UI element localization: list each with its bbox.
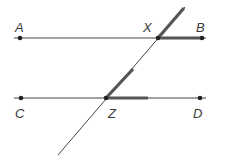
angle-x-ray-up (158, 8, 184, 38)
label-a: A (14, 20, 24, 35)
point-d (198, 96, 203, 101)
label-z: Z (107, 106, 117, 121)
label-c: C (15, 106, 25, 121)
label-d: D (193, 106, 202, 121)
point-a (18, 36, 23, 41)
point-c (19, 96, 24, 101)
geometry-diagram: A X B C Z D (0, 0, 228, 165)
point-x (156, 36, 161, 41)
point-b (200, 36, 205, 41)
point-z (104, 96, 109, 101)
angle-z-ray-up (106, 69, 133, 98)
label-b: B (196, 20, 205, 35)
label-x: X (142, 20, 153, 35)
